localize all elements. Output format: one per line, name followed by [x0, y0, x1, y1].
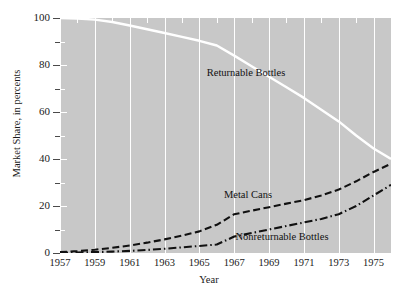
x-axis-title: Year	[0, 274, 418, 285]
y-tick-label: 60	[6, 106, 50, 117]
x-tick-label: 1973	[328, 258, 349, 269]
series-annotation: Metal Cans	[224, 190, 272, 201]
y-tick-mark	[53, 112, 60, 113]
x-tick-label: 1965	[189, 258, 210, 269]
y-tick-mark	[53, 253, 60, 254]
x-tick-label: 1975	[363, 258, 384, 269]
x-tick-label: 1963	[154, 258, 175, 269]
plot-panel	[60, 18, 391, 253]
y-tick-mark	[53, 65, 60, 66]
series-annotation: Returnable Bottles	[207, 68, 285, 79]
y-tick-label: 20	[6, 200, 50, 211]
x-tick-label: 1967	[224, 258, 245, 269]
y-tick-label: 100	[6, 12, 50, 23]
x-tick-label: 1957	[50, 258, 71, 269]
y-tick-label: 0	[6, 247, 50, 258]
chart-figure: Market Share, in percents 020406080100 1…	[0, 0, 418, 300]
series-curves	[60, 18, 391, 253]
y-tick-label: 40	[6, 153, 50, 164]
y-tick-mark	[53, 206, 60, 207]
x-tick-label: 1961	[119, 258, 140, 269]
series-annotation: Nonreturnable Bottles	[235, 232, 328, 243]
y-tick-label: 80	[6, 59, 50, 70]
series-line-metal-cans	[60, 164, 391, 252]
y-tick-mark	[53, 18, 60, 19]
series-line-returnable-bottles	[60, 18, 391, 159]
x-tick-label: 1959	[84, 258, 105, 269]
y-tick-mark	[55, 42, 60, 43]
y-tick-mark	[55, 183, 60, 184]
x-tick-label: 1971	[293, 258, 314, 269]
y-tick-mark	[55, 136, 60, 137]
x-tick-label: 1969	[259, 258, 280, 269]
y-tick-mark	[53, 159, 60, 160]
y-tick-mark	[55, 230, 60, 231]
y-tick-mark	[55, 89, 60, 90]
